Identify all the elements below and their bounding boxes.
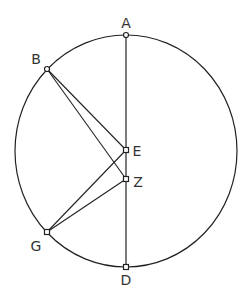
geometry-diagram: A B E Z G D (0, 0, 250, 300)
label-A: A (121, 15, 131, 31)
point-B (45, 67, 50, 72)
label-D: D (121, 272, 132, 288)
segment-GE (47, 150, 126, 232)
point-Z (124, 177, 129, 182)
point-D (124, 265, 129, 270)
point-E (124, 148, 129, 153)
label-B: B (31, 51, 41, 67)
label-G: G (31, 238, 42, 254)
label-Z: Z (133, 174, 143, 190)
segment-BE (47, 69, 126, 150)
point-A (124, 33, 129, 38)
segment-GZ (47, 179, 126, 232)
label-E: E (133, 143, 142, 159)
point-G (45, 230, 50, 235)
